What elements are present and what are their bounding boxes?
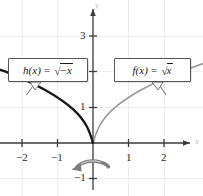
plot-canvas [0,0,203,196]
callout-h-equals: = [41,64,53,76]
callout-h-name: h(x) [23,64,41,76]
x-axis-arrowhead [183,140,190,146]
callout-f: f(x) = √x [114,58,191,82]
callout-h-radical: √−x [53,64,73,77]
callout-f-equals: = [148,64,160,76]
grid-lines [0,0,203,196]
xtick-label-pos1: 1 [126,151,132,163]
xtick-label-neg2: −2 [16,151,28,163]
y-axis-arrowhead [90,9,96,16]
ytick-label-pos3: 3 [80,29,86,41]
xtick-label-neg1: −1 [51,151,63,163]
callout-f-radical: √x [160,64,172,77]
reflection-arrow [72,161,109,172]
graph-figure: −2 −1 1 2 3 1 −1 y x h(x) = √−x f(x) = √… [0,0,203,196]
callout-h: h(x) = √−x [8,58,88,82]
callout-f-name: f(x) [132,64,148,76]
x-axis-label: x [195,137,199,146]
callout-f-radicand: x [167,63,173,76]
ytick-label-neg1: −1 [74,171,86,183]
xtick-label-pos2: 2 [161,151,167,163]
callout-h-radicand: −x [60,63,74,76]
ytick-label-pos1: 1 [80,100,86,112]
y-axis-label: y [95,1,99,10]
